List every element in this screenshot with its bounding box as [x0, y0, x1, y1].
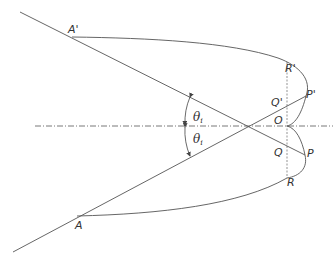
- label-R-prime: R': [285, 62, 296, 75]
- label-Q-prime: Q': [271, 96, 283, 109]
- lower-angle-arc: [185, 127, 190, 156]
- lower-envelope-curve: [77, 126, 306, 216]
- label-A: A: [74, 219, 83, 232]
- optics-diagram: A' A R' Q' P' O Q P R θi θi: [0, 0, 333, 258]
- lower-ray: [13, 96, 306, 252]
- upper-angle-label: θi: [193, 110, 203, 125]
- upper-ray: [20, 12, 305, 155]
- diagram-canvas: A' A R' Q' P' O Q P R θi θi: [0, 0, 333, 258]
- label-P-prime: P': [306, 88, 316, 101]
- label-O: O: [274, 114, 283, 127]
- upper-envelope-curve: [72, 37, 308, 126]
- lower-angle-label: θi: [193, 132, 203, 147]
- label-Q: Q: [274, 146, 283, 159]
- upper-angle-arc: [185, 97, 190, 125]
- label-R: R: [287, 176, 295, 189]
- label-A-prime: A': [67, 23, 79, 36]
- label-P: P: [307, 147, 314, 160]
